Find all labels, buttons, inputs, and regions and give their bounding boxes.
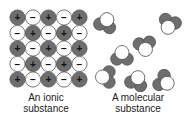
svg-text:−: −	[61, 43, 67, 54]
svg-text:+: +	[46, 12, 52, 23]
cation-ion: +	[41, 72, 56, 87]
large-atom	[115, 46, 129, 60]
svg-text:−: −	[46, 59, 52, 70]
svg-text:−: −	[61, 74, 67, 85]
cation-ion: +	[41, 10, 56, 25]
cation-ion: +	[72, 72, 87, 87]
svg-text:+: +	[30, 59, 36, 70]
cation-ion: +	[72, 10, 87, 25]
svg-text:+: +	[77, 12, 83, 23]
svg-text:+: +	[30, 28, 36, 39]
svg-text:+: +	[15, 12, 21, 23]
molecule	[123, 67, 151, 92]
ionic-substance-panel: +−+−+−+−+−+−+−+−+−+−+−+−+ An ionic subst…	[0, 0, 92, 122]
anion-ion: −	[41, 56, 56, 71]
svg-text:−: −	[30, 43, 36, 54]
anion-ion: −	[56, 41, 71, 56]
anion-ion: −	[56, 10, 71, 25]
svg-text:+: +	[15, 74, 21, 85]
svg-text:+: +	[61, 28, 67, 39]
molecular-caption-line1: A molecular	[92, 92, 184, 103]
cation-ion: +	[25, 56, 40, 71]
svg-text:+: +	[77, 74, 83, 85]
cation-ion: +	[10, 10, 25, 25]
svg-text:−: −	[46, 28, 52, 39]
svg-text:−: −	[15, 59, 21, 70]
anion-ion: −	[25, 41, 40, 56]
svg-text:+: +	[46, 43, 52, 54]
anion-ion: −	[25, 10, 40, 25]
cation-ion: +	[41, 41, 56, 56]
molecule	[92, 9, 120, 35]
anion-ion: −	[41, 25, 56, 40]
molecule	[151, 67, 179, 92]
cation-ion: +	[10, 72, 25, 87]
svg-text:−: −	[30, 74, 36, 85]
ionic-lattice: +−+−+−+−+−+−+−+−+−+−+−+−+	[0, 0, 92, 92]
svg-text:+: +	[46, 74, 52, 85]
large-atom	[96, 70, 110, 84]
svg-text:−: −	[77, 28, 83, 39]
svg-text:+: +	[15, 43, 21, 54]
molecule	[132, 35, 158, 58]
cation-ion: +	[25, 25, 40, 40]
molecular-substance-panel: A molecular substance	[92, 0, 184, 122]
anion-ion: −	[72, 25, 87, 40]
ionic-caption-line1: An ionic	[0, 92, 92, 103]
molecule	[155, 12, 183, 38]
cation-ion: +	[10, 41, 25, 56]
cation-ion: +	[56, 25, 71, 40]
svg-text:−: −	[61, 12, 67, 23]
svg-text:+: +	[61, 59, 67, 70]
anion-ion: −	[25, 72, 40, 87]
cation-ion: +	[72, 41, 87, 56]
ionic-caption-line2: substance	[0, 103, 92, 114]
anion-ion: −	[10, 25, 25, 40]
svg-text:+: +	[77, 43, 83, 54]
cation-ion: +	[56, 56, 71, 71]
svg-text:−: −	[77, 59, 83, 70]
svg-text:−: −	[15, 28, 21, 39]
molecule	[96, 66, 116, 89]
anion-ion: −	[10, 56, 25, 71]
anion-ion: −	[56, 72, 71, 87]
molecular-arrangement	[92, 0, 184, 92]
molecule	[111, 46, 134, 66]
anion-ion: −	[72, 56, 87, 71]
svg-text:−: −	[30, 12, 36, 23]
molecular-caption-line2: substance	[92, 103, 184, 114]
